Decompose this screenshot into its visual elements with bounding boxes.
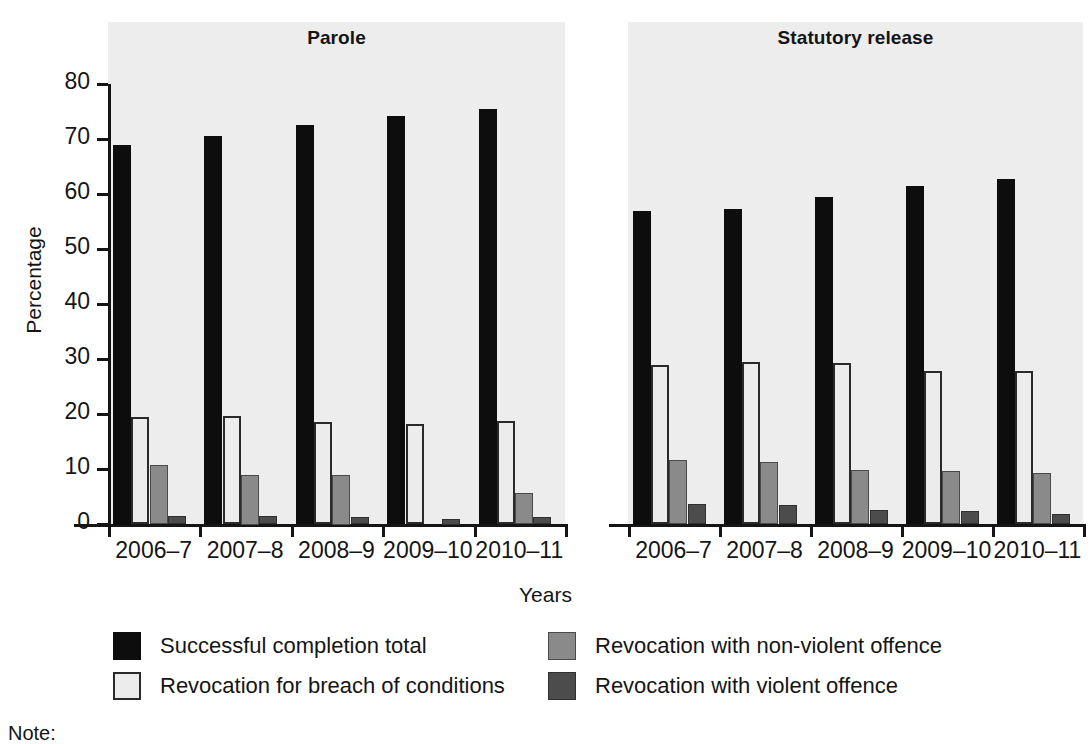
bar (815, 197, 833, 524)
bar (997, 179, 1015, 524)
x-axis-tick (719, 524, 722, 537)
bar (259, 516, 277, 524)
bar (150, 465, 168, 524)
dark-gray-square-icon (548, 672, 576, 700)
x-axis-tick-label: 2010–11 (466, 537, 573, 564)
bar (1052, 514, 1070, 524)
bar (924, 371, 942, 524)
bar (633, 211, 651, 525)
y-axis-tick (97, 413, 108, 416)
legend-item-revocation-violent-offence: Revocation with violent offence (548, 670, 898, 702)
legend-label: Revocation with violent offence (595, 673, 898, 699)
bar (314, 422, 332, 524)
bar (742, 362, 760, 524)
y-axis-tick-label: 70 (38, 123, 90, 150)
x-axis-tick (382, 524, 385, 537)
bar (332, 475, 350, 525)
x-axis-tick-label: 2010–11 (984, 537, 1091, 564)
x-axis-title: Years (0, 583, 1091, 607)
bar (688, 504, 706, 524)
x-axis-line-parole (74, 524, 568, 527)
x-axis-tick (108, 524, 111, 537)
bar (387, 116, 405, 524)
bar (406, 424, 424, 524)
bar (669, 460, 687, 524)
y-axis-tick-label: 80 (38, 68, 90, 95)
y-axis-tick (97, 83, 108, 86)
footnote-note-label: Note: (8, 722, 56, 744)
x-axis-tick (1083, 524, 1086, 537)
chart-legend: Successful completion total Revocation f… (0, 630, 1091, 706)
bar (515, 493, 533, 524)
y-axis-tick (97, 193, 108, 196)
bar (204, 136, 222, 524)
x-axis-line-statutory (609, 524, 1086, 527)
y-axis-tick (97, 358, 108, 361)
black-square-icon (113, 632, 141, 660)
bar (168, 516, 186, 524)
bar (1033, 473, 1051, 524)
y-axis-title: Percentage (22, 160, 46, 400)
bar (833, 363, 851, 524)
bar (113, 145, 131, 525)
legend-item-revocation-non-violent-offence: Revocation with non-violent offence (548, 630, 942, 662)
bar (442, 519, 460, 525)
x-axis-tick (565, 524, 568, 537)
y-axis-tick (97, 468, 108, 471)
y-axis-tick-label: 10 (38, 453, 90, 480)
light-gray-square-icon (548, 632, 576, 660)
y-axis-tick (97, 248, 108, 251)
x-axis-tick (901, 524, 904, 537)
y-axis-tick-label: 0 (38, 508, 90, 535)
panel-title-parole: Parole (108, 27, 565, 49)
y-axis-tick (97, 303, 108, 306)
legend-label: Revocation for breach of conditions (160, 673, 505, 699)
bar (779, 505, 797, 524)
bar (651, 365, 669, 524)
bar (241, 475, 259, 525)
y-axis-tick-label: 20 (38, 398, 90, 425)
panel-title-statutory: Statutory release (628, 27, 1083, 49)
bar (223, 416, 241, 524)
bar (351, 517, 369, 524)
bar (131, 417, 149, 524)
bar (961, 511, 979, 524)
bar-chart-figure: Parole Statutory release 010203040506070… (0, 0, 1091, 744)
bar (724, 209, 742, 524)
x-axis-tick (291, 524, 294, 537)
legend-label: Successful completion total (160, 633, 427, 659)
bar (1015, 371, 1033, 524)
bar (533, 517, 551, 524)
bar (906, 186, 924, 524)
x-axis-tick (474, 524, 477, 537)
legend-item-successful-completion-total: Successful completion total (113, 630, 427, 662)
bar (497, 421, 515, 524)
y-axis-line (108, 84, 111, 525)
bar (851, 470, 869, 524)
bar (296, 125, 314, 524)
x-axis-tick (628, 524, 631, 537)
bar (870, 510, 888, 524)
bar (760, 462, 778, 524)
x-axis-tick (992, 524, 995, 537)
bar (479, 109, 497, 524)
white-square-icon (113, 672, 141, 700)
x-axis-tick (810, 524, 813, 537)
bar (942, 471, 960, 524)
y-axis-tick (97, 138, 108, 141)
legend-item-revocation-breach-conditions: Revocation for breach of conditions (113, 670, 505, 702)
x-axis-tick (199, 524, 202, 537)
legend-label: Revocation with non-violent offence (595, 633, 942, 659)
